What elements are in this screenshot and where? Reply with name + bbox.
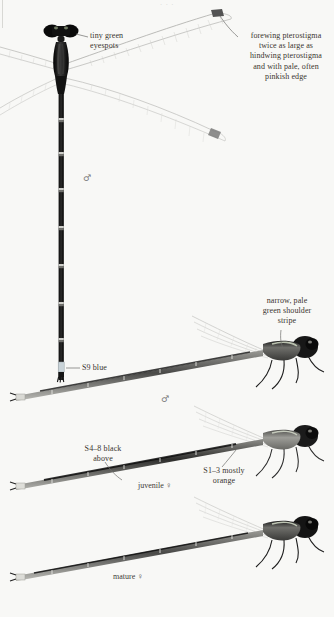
eyespot-right — [64, 27, 68, 30]
specimen-lateral-male — [10, 316, 324, 401]
annotation-s9-blue: S9 blue — [82, 363, 107, 373]
abdomen-dorsal — [57, 94, 64, 383]
segment-s9-blue — [58, 362, 64, 372]
specimen-mature-female — [10, 497, 324, 581]
wing-hindwing-right — [65, 78, 225, 142]
caption-mature-female: mature ♀ — [113, 572, 143, 581]
specimen-dorsal-male — [0, 9, 231, 383]
leader-pterostigma — [220, 16, 238, 37]
leader-s1-3-orange — [222, 450, 236, 467]
head-dorsal — [44, 25, 79, 43]
eyespot-left — [54, 27, 58, 30]
caption-juvenile-female: juvenile ♀ — [138, 481, 172, 490]
annotation-s1-3-orange: S1–3 mostly orange — [193, 466, 255, 486]
annotation-s4-8-black: S4–8 black above — [72, 444, 134, 464]
thorax-dorsal — [53, 42, 69, 76]
legs-mature — [256, 536, 324, 569]
wing-hindwing-left — [0, 78, 58, 115]
specimen-juvenile-female — [10, 406, 324, 490]
annotation-shoulder-stripe: narrow, pale green shoulder stripe — [249, 296, 325, 327]
annotation-eyespots: tiny green eyespots — [90, 31, 156, 51]
plate-canvas: · · · — [0, 0, 334, 617]
thorax-lateral-juv — [263, 430, 300, 450]
pterostigma-hindwing — [208, 128, 221, 139]
legs-juv — [256, 445, 324, 478]
pterostigma-forewing — [211, 9, 224, 17]
legs-male — [256, 356, 324, 389]
label-male-symbol-lateral: ♂ — [161, 394, 169, 404]
leader-eyespots — [76, 34, 88, 37]
wing-forewing-left — [0, 47, 58, 70]
annotation-pterostigma: forewing pterostigma twice as large as h… — [239, 31, 333, 82]
label-male-symbol-dorsal: ♂ — [83, 173, 91, 183]
leader-lines — [66, 16, 283, 480]
thorax-lateral-mature — [263, 521, 300, 541]
abdomen-lateral-male — [10, 350, 263, 401]
